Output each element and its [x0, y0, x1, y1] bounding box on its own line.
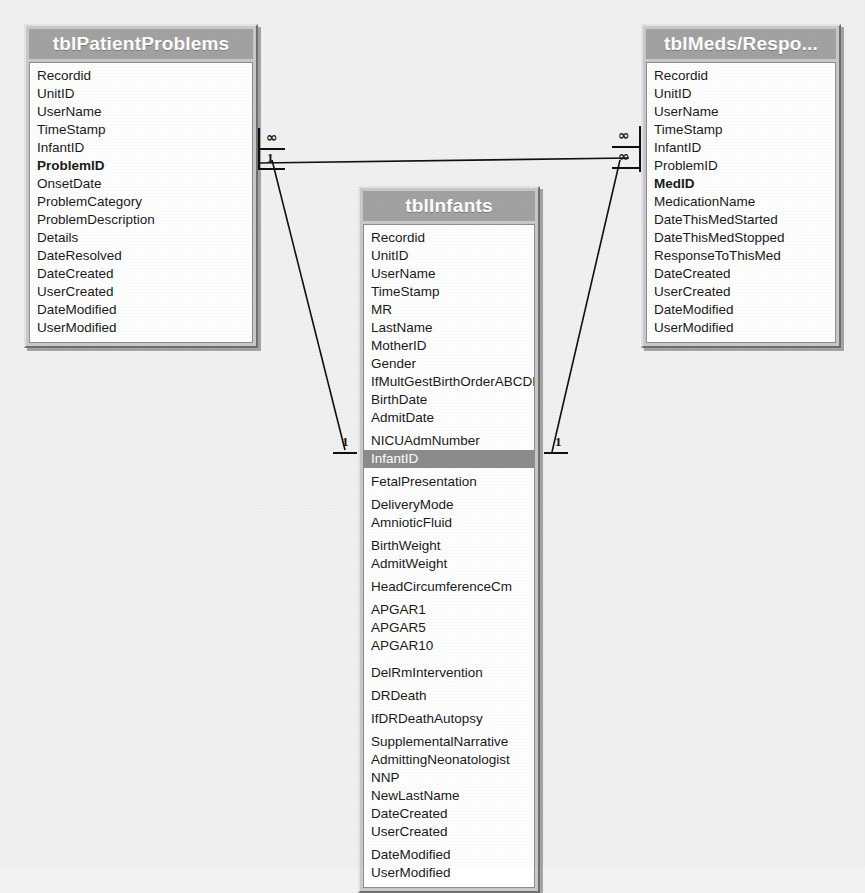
field-row[interactable]: DateThisMedStopped [647, 229, 835, 247]
field-row[interactable]: NewLastName [364, 787, 534, 805]
field-row[interactable]: BirthWeight [364, 537, 534, 555]
field-row[interactable]: UnitID [647, 85, 835, 103]
field-row[interactable]: AdmittingNeonatologist [364, 751, 534, 769]
field-list: RecordidUnitIDUserNameTimeStampInfantIDP… [646, 62, 836, 343]
field-row[interactable]: TimeStamp [364, 283, 534, 301]
field-row[interactable]: DateModified [364, 846, 534, 864]
right-marker-baseline [612, 167, 640, 169]
field-row[interactable]: UserCreated [364, 823, 534, 841]
field-row[interactable]: DateResolved [30, 247, 252, 265]
table-title: tblInfants [363, 191, 535, 221]
field-row[interactable]: UserModified [647, 319, 835, 337]
field-row[interactable]: LastName [364, 319, 534, 337]
field-row[interactable]: ProblemID [30, 157, 252, 175]
field-row[interactable]: DelRmIntervention [364, 664, 534, 682]
field-row[interactable]: MR [364, 301, 534, 319]
table-tblInfants[interactable]: tblInfants RecordidUnitIDUserNameTimeSta… [358, 186, 540, 893]
field-row[interactable]: ProblemCategory [30, 193, 252, 211]
field-row[interactable]: UserCreated [647, 283, 835, 301]
field-list: RecordidUnitIDUserNameTimeStampInfantIDP… [29, 62, 253, 343]
left-marker-baseline [259, 168, 285, 170]
field-row[interactable]: DateCreated [364, 805, 534, 823]
field-row[interactable]: UnitID [364, 247, 534, 265]
field-row[interactable]: DateCreated [647, 265, 835, 283]
field-row-selected[interactable]: InfantID [364, 450, 534, 468]
field-row[interactable]: DRDeath [364, 687, 534, 705]
cardinality-one-left-top: 1 [263, 151, 278, 164]
field-row[interactable]: TimeStamp [647, 121, 835, 139]
field-row[interactable]: ResponseToThisMed [647, 247, 835, 265]
field-row[interactable]: APGAR5 [364, 619, 534, 637]
field-row[interactable]: SupplementalNarrative [364, 733, 534, 751]
field-row[interactable]: ProblemID [647, 157, 835, 175]
field-row[interactable]: AdmitWeight [364, 555, 534, 573]
right-marker-bar [639, 126, 641, 172]
field-row[interactable]: UserName [30, 103, 252, 121]
field-row[interactable]: OnsetDate [30, 175, 252, 193]
field-row[interactable]: NICUAdmNumber [364, 432, 534, 450]
field-row[interactable]: AdmitDate [364, 409, 534, 427]
right-bottom-marker-baseline [544, 452, 568, 454]
field-row[interactable]: FetalPresentation [364, 473, 534, 491]
field-row[interactable]: UserModified [364, 864, 534, 882]
field-row[interactable]: InfantID [30, 139, 252, 157]
field-row[interactable]: BirthDate [364, 391, 534, 409]
field-row[interactable]: TimeStamp [30, 121, 252, 139]
field-row[interactable]: DateModified [30, 301, 252, 319]
table-title: tblPatientProblems [29, 29, 253, 59]
cardinality-one-right-bottom: 1 [551, 435, 566, 448]
field-row[interactable]: IfDRDeathAutopsy [364, 710, 534, 728]
table-tblPatientProblems[interactable]: tblPatientProblems RecordidUnitIDUserNam… [24, 24, 258, 348]
left-bottom-marker-baseline [333, 452, 357, 454]
field-row[interactable]: AmnioticFluid [364, 514, 534, 532]
table-title: tblMeds/Respo... [646, 29, 836, 59]
field-row[interactable]: DeliveryMode [364, 496, 534, 514]
field-row[interactable]: APGAR1 [364, 601, 534, 619]
field-row[interactable]: MotherID [364, 337, 534, 355]
field-row[interactable]: UserName [364, 265, 534, 283]
field-row[interactable]: NNP [364, 769, 534, 787]
field-row[interactable]: Gender [364, 355, 534, 373]
field-row[interactable]: Recordid [30, 67, 252, 85]
field-row[interactable]: MedicationName [647, 193, 835, 211]
field-row[interactable]: Details [30, 229, 252, 247]
table-tblMedsResponses[interactable]: tblMeds/Respo... RecordidUnitIDUserNameT… [641, 24, 841, 348]
field-row[interactable]: APGAR10 [364, 637, 534, 655]
field-list: RecordidUnitIDUserNameTimeStampMRLastNam… [363, 224, 535, 888]
field-row[interactable]: UserName [647, 103, 835, 121]
field-row[interactable]: Recordid [647, 67, 835, 85]
cardinality-many-right-lower: ∞ [614, 149, 633, 163]
field-row[interactable]: DateCreated [30, 265, 252, 283]
field-row[interactable]: MedID [647, 175, 835, 193]
field-row[interactable]: DateThisMedStarted [647, 211, 835, 229]
field-row[interactable]: UnitID [30, 85, 252, 103]
cardinality-many-right-upper: ∞ [614, 128, 633, 142]
field-row[interactable]: InfantID [647, 139, 835, 157]
cardinality-one-left-bottom: 1 [338, 435, 353, 448]
field-row[interactable]: ProblemDescription [30, 211, 252, 229]
field-row[interactable]: HeadCircumferenceCm [364, 578, 534, 596]
field-row[interactable]: UserCreated [30, 283, 252, 301]
field-row[interactable]: DateModified [647, 301, 835, 319]
cardinality-many-left-top: ∞ [262, 130, 281, 144]
field-row[interactable]: IfMultGestBirthOrderABCDE [364, 373, 534, 391]
field-row[interactable]: UserModified [30, 319, 252, 337]
field-row[interactable]: Recordid [364, 229, 534, 247]
